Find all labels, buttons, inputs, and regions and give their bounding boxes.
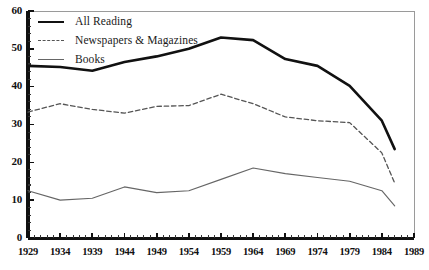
series-line-newspapers-magazines bbox=[28, 94, 395, 183]
y-tick-label: 40 bbox=[0, 79, 22, 91]
x-tick-label: 1949 bbox=[139, 246, 175, 257]
y-tick-label: 0 bbox=[0, 231, 22, 243]
y-tick-label: 20 bbox=[0, 155, 22, 167]
x-tick-label: 1944 bbox=[107, 246, 143, 257]
y-tick-label: 50 bbox=[0, 41, 22, 53]
legend-line-newspapers-icon bbox=[38, 34, 64, 46]
x-tick-label: 1979 bbox=[332, 246, 368, 257]
x-tick-label: 1989 bbox=[396, 246, 429, 257]
x-tick-label: 1984 bbox=[364, 246, 400, 257]
legend-label-all-reading: All Reading bbox=[75, 15, 132, 27]
x-tick-label: 1969 bbox=[267, 246, 303, 257]
x-tick-label: 1964 bbox=[235, 246, 271, 257]
x-tick-label: 1959 bbox=[203, 246, 239, 257]
legend-item-all-reading[interactable]: All Reading bbox=[38, 11, 198, 30]
legend-line-books-icon bbox=[38, 53, 64, 65]
legend-label-books: Books bbox=[75, 53, 105, 65]
series-line-books bbox=[28, 168, 395, 206]
x-tick-label: 1974 bbox=[300, 246, 336, 257]
legend-label-newspapers: Newspapers & Magazines bbox=[75, 34, 198, 46]
legend-item-newspapers[interactable]: Newspapers & Magazines bbox=[38, 30, 198, 49]
x-tick-label: 1939 bbox=[74, 246, 110, 257]
chart-legend: All Reading Newspapers & Magazines Books bbox=[38, 11, 198, 68]
x-tick-label: 1954 bbox=[171, 246, 207, 257]
legend-line-all-reading-icon bbox=[38, 15, 64, 27]
y-tick-label: 60 bbox=[0, 4, 22, 16]
x-tick-label: 1934 bbox=[42, 246, 78, 257]
legend-item-books[interactable]: Books bbox=[38, 49, 198, 68]
y-tick-label: 30 bbox=[0, 117, 22, 129]
y-tick-label: 10 bbox=[0, 193, 22, 205]
x-tick-label: 1929 bbox=[10, 246, 46, 257]
